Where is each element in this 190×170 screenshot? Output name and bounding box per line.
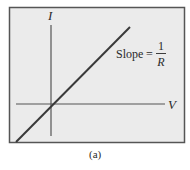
slope-denominator: R: [156, 56, 166, 68]
slope-numerator: 1: [156, 40, 166, 52]
x-axis-label: V: [168, 98, 176, 111]
slope-word: Slope: [116, 48, 143, 60]
y-axis-label: I: [48, 9, 52, 22]
figure-caption: (a): [89, 149, 101, 160]
slope-equals: =: [146, 48, 153, 60]
iv-characteristic-figure: I V Slope = 1 R (a): [0, 0, 190, 170]
plot-canvas: [0, 0, 190, 170]
